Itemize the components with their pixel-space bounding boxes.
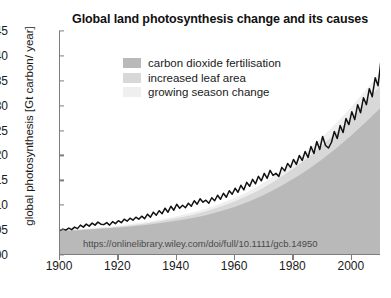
x-tick-label: 1940 (162, 259, 189, 273)
x-tick-label: 1960 (221, 259, 248, 273)
legend-label: carbon dioxide fertilisation (148, 57, 281, 69)
y-tick-label: 115 (0, 173, 8, 187)
x-tick-mark (234, 255, 235, 260)
y-tick-label: 145 (0, 24, 8, 38)
x-tick-mark (117, 255, 118, 260)
legend-item: growing season change (123, 85, 281, 100)
legend-label: increased leaf area (148, 72, 246, 84)
x-tick-mark (176, 255, 177, 260)
y-tick-mark (59, 55, 64, 56)
y-tick-label: 125 (0, 124, 8, 138)
y-tick-mark (59, 155, 64, 156)
x-tick-label: 1980 (279, 259, 306, 273)
legend-item: increased leaf area (123, 71, 281, 86)
x-tick-mark (292, 255, 293, 260)
legend-swatch (123, 58, 141, 68)
y-tick-label: 100 (0, 248, 8, 262)
y-tick-label: 110 (0, 198, 8, 212)
chart-figure: Global land photosynthesis change and it… (0, 0, 391, 298)
y-tick-mark (59, 130, 64, 131)
source-url-watermark: https://onlinelibrary.wiley.com/doi/full… (83, 238, 318, 249)
y-tick-label: 120 (0, 148, 8, 162)
x-tick-label: 2000 (337, 259, 364, 273)
y-tick-mark (59, 180, 64, 181)
legend-swatch (123, 73, 141, 83)
chart-legend: carbon dioxide fertilisationincreased le… (123, 56, 281, 100)
y-tick-mark (59, 105, 64, 106)
x-tick-mark (59, 255, 60, 260)
x-tick-label: 1900 (46, 259, 73, 273)
y-tick-label: 130 (0, 99, 8, 113)
y-tick-mark (59, 30, 64, 31)
y-tick-mark (59, 230, 64, 231)
y-tick-mark (59, 80, 64, 81)
y-tick-label: 135 (0, 74, 8, 88)
legend-label: growing season change (148, 86, 269, 98)
y-tick-mark (59, 205, 64, 206)
y-tick-label: 140 (0, 49, 8, 63)
legend-swatch (123, 87, 141, 97)
y-tick-label: 105 (0, 223, 8, 237)
x-tick-mark (351, 255, 352, 260)
y-axis-label: global photosynthesis [Gt carbon/ year] (23, 1, 35, 251)
chart-title: Global land photosynthesis change and it… (59, 12, 381, 26)
legend-item: carbon dioxide fertilisation (123, 56, 281, 71)
x-tick-label: 1920 (104, 259, 131, 273)
